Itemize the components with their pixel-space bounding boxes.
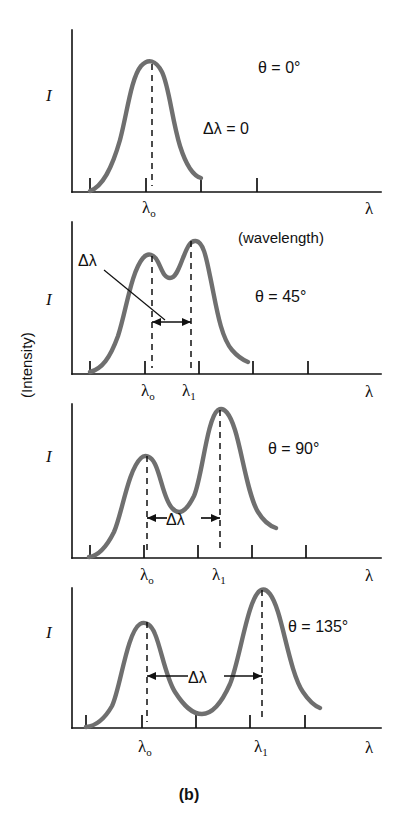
panel-0deg-tick-label-lambda0: λo <box>142 198 156 219</box>
panel-90deg-x-ticks <box>90 545 306 558</box>
y-axis-sublabel-intensity: (Intensity) <box>18 332 35 398</box>
figure-canvas: I θ = 0° Δλ = 0 λo λ <box>0 0 409 822</box>
panel-0deg-x-axis-label: λ <box>365 199 374 218</box>
panel-0deg-y-axis-label: I <box>45 86 53 105</box>
panel-45deg-angle-label: θ = 45° <box>255 288 306 305</box>
x-axis-sublabel-wavelength: (wavelength) <box>238 229 324 246</box>
panel-45deg-tick-label-lambda0: λo <box>141 381 155 402</box>
panel-135deg-x-axis-label: λ <box>365 738 374 757</box>
panel-45deg-curve <box>90 241 248 372</box>
panel-135deg-y-axis-label: I <box>45 623 53 642</box>
panel-90deg-y-axis-label: I <box>45 447 53 466</box>
panel-45deg-x-axis-label: λ <box>365 382 374 401</box>
panel-0deg-curve <box>90 61 201 191</box>
panel-90deg-x-axis-label: λ <box>365 566 374 585</box>
panel-135deg-delta-label: Δλ <box>188 669 207 686</box>
panel-0deg-x-ticks <box>90 178 257 192</box>
figure-caption: (b) <box>179 786 199 803</box>
panel-90deg: Δλ I θ = 90° λo λ1 λ <box>45 404 381 586</box>
panel-135deg-tick-label-lambda0: λo <box>138 737 152 758</box>
panel-0deg: I θ = 0° Δλ = 0 λo λ <box>45 30 381 219</box>
panel-90deg-delta-label: Δλ <box>166 511 185 528</box>
panel-45deg-delta-measure <box>152 318 191 326</box>
panel-45deg: Δλ I θ = 45° (wavelength) λo λ1 λ <box>45 222 381 402</box>
panel-45deg-x-ticks <box>90 361 308 374</box>
panel-45deg-tick-label-lambda1: λ1 <box>182 381 196 402</box>
panel-45deg-delta-label: Δλ <box>78 252 97 269</box>
panel-90deg-tick-label-lambda1: λ1 <box>212 565 226 586</box>
panel-135deg-angle-label: θ = 135° <box>288 618 348 635</box>
panel-0deg-angle-label: θ = 0° <box>258 59 300 76</box>
panel-135deg-curve <box>86 589 320 727</box>
panel-135deg-x-ticks <box>86 715 305 728</box>
panel-135deg-tick-label-lambda1: λ1 <box>254 737 268 758</box>
panel-135deg: Δλ I θ = 135° λo λ1 λ <box>45 588 381 758</box>
compton-spectra-figure: I θ = 0° Δλ = 0 λo λ <box>0 0 409 822</box>
panel-0deg-delta-label: Δλ = 0 <box>203 120 249 137</box>
panel-90deg-angle-label: θ = 90° <box>268 440 319 457</box>
panel-90deg-tick-label-lambda0: λo <box>140 565 154 586</box>
panel-45deg-y-axis-label: I <box>45 290 53 309</box>
panel-90deg-curve <box>89 409 276 557</box>
